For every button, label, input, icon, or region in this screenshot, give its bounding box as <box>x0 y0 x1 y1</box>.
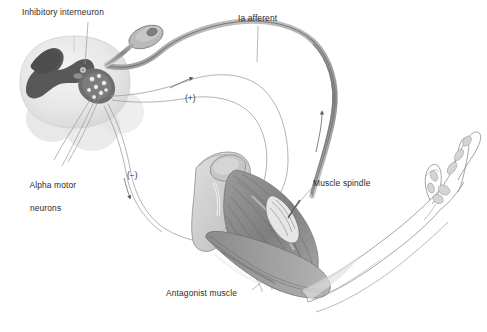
flexed-arm <box>192 132 481 312</box>
inhibitory-interneuron-cell-body <box>80 67 86 73</box>
label-muscle-spindle: Muscle spindle <box>313 178 371 190</box>
label-antagonist-muscle: Antagonist muscle <box>166 288 237 300</box>
diagram-canvas <box>0 0 487 332</box>
label-ia-afferent: Ia afferent <box>238 13 277 25</box>
label-alpha-motor-neurons-line2: neurons <box>30 203 61 213</box>
inhibitory-sign: (−) <box>127 170 137 180</box>
label-inhibitory-interneuron: Inhibitory interneuron <box>22 7 104 19</box>
leader-ia-afferent <box>257 26 258 62</box>
label-alpha-motor-neurons: Alpha motor neurons <box>20 168 76 226</box>
hand <box>424 132 481 220</box>
reflex-diagram-figure: Inhibitory interneuron Ia afferent Alpha… <box>0 0 487 332</box>
label-alpha-motor-neurons-line1: Alpha motor <box>29 180 76 190</box>
excitatory-sign: (+) <box>185 93 195 103</box>
